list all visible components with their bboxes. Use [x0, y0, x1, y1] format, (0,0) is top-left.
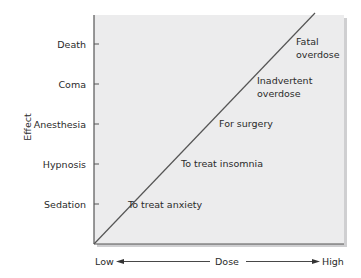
tick-label-anesthesia: Anesthesia — [34, 119, 86, 130]
tick-label-hypnosis: Hypnosis — [43, 159, 86, 170]
annotation-inadvertent-line2: overdose — [257, 88, 301, 99]
annotation-fatal-line2: overdose — [296, 49, 340, 60]
tick-label-sedation: Sedation — [44, 199, 86, 210]
tick-label-coma: Coma — [58, 79, 86, 90]
annotation-anxiety: To treat anxiety — [127, 199, 203, 210]
x-label-high: High — [322, 256, 344, 267]
annotation-insomnia: To treat insomnia — [180, 158, 263, 169]
arrow-right-icon — [312, 259, 320, 264]
x-label-dose: Dose — [215, 256, 239, 267]
dose-effect-chart: Death Coma Anesthesia Hypnosis Sedation … — [0, 0, 361, 278]
tick-label-death: Death — [57, 39, 86, 50]
x-label-low: Low — [95, 256, 114, 267]
annotation-inadvertent-line1: Inadvertent — [257, 75, 313, 86]
y-axis-title: Effect — [22, 113, 33, 141]
annotation-fatal-line1: Fatal — [296, 36, 319, 47]
annotation-surgery: For surgery — [219, 118, 273, 129]
arrow-left-icon — [116, 259, 124, 264]
